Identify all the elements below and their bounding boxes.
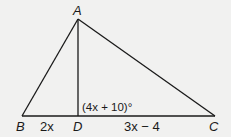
segment-bd-label: 2x [40,119,54,134]
vertex-c-label: C [209,119,219,134]
segment-dc-label: 3x − 4 [124,119,160,134]
angle-adc-label: (4x + 10)° [82,101,132,113]
triangle-diagram: A B D C 2x 3x − 4 (4x + 10)° [0,0,231,137]
vertex-a-label: A [72,3,82,18]
vertex-d-label: D [73,119,82,134]
vertex-b-label: B [16,119,25,134]
segment-ab [22,19,78,116]
